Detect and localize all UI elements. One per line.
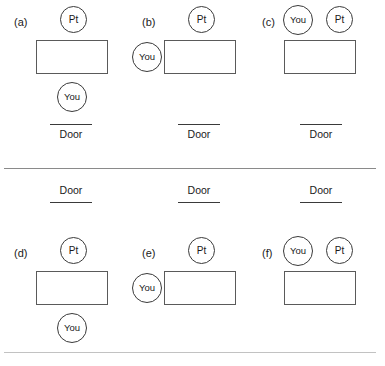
panel-f-you-node: You (283, 236, 313, 266)
panel-a: (a) Pt You Door (0, 0, 128, 160)
bottom-rule (4, 352, 376, 353)
panel-b-pt-node: Pt (188, 6, 215, 33)
room-layout-figure: (a) Pt You Door (b) Pt You Door (c) You … (0, 0, 385, 366)
panel-a-label: (a) (14, 16, 27, 28)
panel-e-you-node: You (132, 273, 162, 303)
panel-c-pt-node: Pt (326, 6, 353, 33)
panel-c-label: (c) (262, 16, 275, 28)
panel-a-door-label: Door (46, 128, 96, 140)
panel-f: Door (f) You Pt (256, 180, 384, 340)
panel-d-door-label: Door (46, 184, 96, 196)
panel-b: (b) Pt You Door (128, 0, 256, 160)
panel-e-label: (e) (142, 247, 155, 259)
panel-b-room (164, 40, 236, 74)
panel-b-label: (b) (142, 16, 155, 28)
panel-a-room (36, 40, 108, 74)
panel-d-you-node: You (57, 313, 87, 343)
panel-e-pt-node: Pt (188, 237, 215, 264)
panel-d-label: (d) (14, 247, 27, 259)
panel-f-door-label: Door (296, 184, 346, 196)
panel-c-door-line (300, 124, 342, 125)
panel-d: Door (d) Pt You (0, 180, 128, 340)
panel-e-door-label: Door (174, 184, 224, 196)
panel-b-you-node: You (132, 42, 162, 72)
panel-c-you-node: You (283, 5, 313, 35)
panel-c: (c) You Pt Door (256, 0, 384, 160)
panel-b-door-label: Door (174, 128, 224, 140)
panel-e: Door (e) Pt You (128, 180, 256, 340)
panel-f-label: (f) (262, 247, 272, 259)
panel-f-door-line (300, 202, 342, 203)
panel-b-door-line (178, 124, 220, 125)
section-divider (4, 168, 376, 169)
panel-a-pt-node: Pt (60, 6, 87, 33)
panel-d-pt-node: Pt (60, 237, 87, 264)
panel-d-door-line (50, 202, 92, 203)
panel-d-room (36, 271, 108, 305)
panel-a-you-node: You (57, 82, 87, 112)
panel-e-room (164, 271, 236, 305)
panel-f-pt-node: Pt (326, 237, 353, 264)
panel-c-door-label: Door (296, 128, 346, 140)
panel-a-door-line (50, 124, 92, 125)
panel-c-room (284, 40, 356, 74)
panel-f-room (284, 271, 356, 305)
panel-e-door-line (178, 202, 220, 203)
